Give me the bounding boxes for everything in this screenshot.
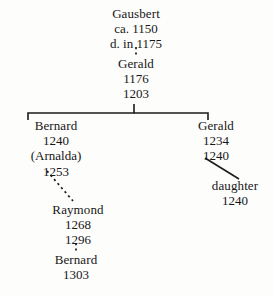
node-bernard-1240-name: Bernard xyxy=(0,118,112,133)
node-gausbert-name: Gausbert xyxy=(84,6,188,21)
node-bernard-1303-line2: 1303 xyxy=(30,267,122,282)
node-gerald-1176-name: Gerald xyxy=(92,56,180,71)
node-gerald-1176-line2: 1176 xyxy=(92,71,180,86)
node-raymond-1268: Raymond 1268 1296 xyxy=(32,202,124,248)
node-raymond-1268-line3: 1296 xyxy=(32,232,124,247)
node-bernard-1240-line2: 1240 xyxy=(0,133,112,148)
node-bernard-1240: Bernard 1240 (Arnalda) 1253 xyxy=(0,118,112,179)
node-gausbert: Gausbert ca. 1150 d. in 1175 xyxy=(84,6,188,52)
node-gerald-1234-line2: 1234 xyxy=(172,133,260,148)
node-bernard-1303-name: Bernard xyxy=(30,252,122,267)
node-daughter-1240-name: daughter xyxy=(196,178,274,193)
node-gausbert-line2: ca. 1150 xyxy=(84,21,188,36)
node-raymond-1268-name: Raymond xyxy=(32,202,124,217)
node-daughter-1240-line2: 1240 xyxy=(196,193,274,208)
node-gerald-1234: Gerald 1234 1240 xyxy=(172,118,260,164)
node-bernard-1303: Bernard 1303 xyxy=(30,252,122,282)
node-gerald-1234-name: Gerald xyxy=(172,118,260,133)
family-tree-diagram: Gausbert ca. 1150 d. in 1175 Gerald 1176… xyxy=(0,0,274,296)
node-daughter-1240: daughter 1240 xyxy=(196,178,274,208)
node-gausbert-line3: d. in 1175 xyxy=(84,36,188,51)
node-gerald-1176: Gerald 1176 1203 xyxy=(92,56,180,102)
node-gerald-1176-line3: 1203 xyxy=(92,86,180,101)
node-raymond-1268-line2: 1268 xyxy=(32,217,124,232)
node-bernard-1240-spouse: (Arnalda) xyxy=(0,148,112,163)
node-bernard-1240-line4: 1253 xyxy=(0,164,112,179)
node-gerald-1234-line3: 1240 xyxy=(172,148,260,163)
